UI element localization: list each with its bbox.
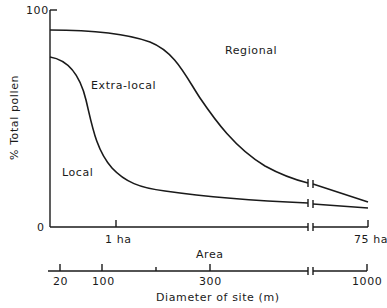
area-tick-label-1ha: 1 ha xyxy=(105,233,132,246)
diameter-tick-label-20: 20 xyxy=(53,275,68,288)
region-label-extralocal: Extra-local xyxy=(91,79,156,92)
region-label-local: Local xyxy=(62,166,94,179)
area-axis-label: Area xyxy=(196,248,224,261)
diameter-axis-label: Diameter of site (m) xyxy=(156,291,280,304)
y-tick-label-100: 100 xyxy=(26,4,49,17)
area-tick-label-75ha: 75 ha xyxy=(354,233,387,246)
local-extralocal-boundary-curve-tail xyxy=(313,204,368,208)
extralocal-regional-boundary-curve-tail xyxy=(313,184,368,202)
y-axis-label: % Total pollen xyxy=(8,75,21,160)
diameter-tick-label-100: 100 xyxy=(92,275,115,288)
y-tick-label-0: 0 xyxy=(37,221,45,234)
region-label-regional: Regional xyxy=(225,44,277,57)
diameter-tick-label-1000: 1000 xyxy=(352,275,382,288)
local-extralocal-boundary-curve xyxy=(50,57,308,203)
pollen-source-chart: 100 0 % Total pollen 1 ha 75 ha Area 20 … xyxy=(0,0,387,308)
diameter-tick-label-300: 300 xyxy=(199,275,222,288)
